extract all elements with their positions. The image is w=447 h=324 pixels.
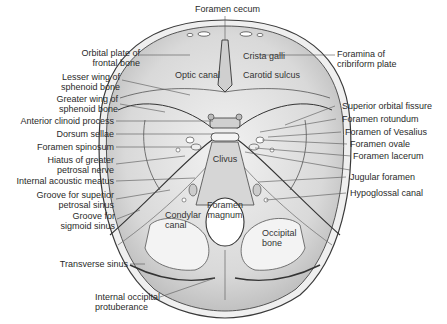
label-foramen-rotundum: Foramen rotundum — [342, 114, 447, 124]
label-carotid-sulcus: Carotid sulcus — [243, 70, 300, 80]
label-hypoglossal-canal: Hypoglossal canal — [350, 188, 447, 198]
label-lesser-wing: Lesser wing of sphenoid bone — [0, 72, 120, 92]
label-condylar-canal: Condylar canal — [165, 210, 201, 230]
label-internal-occipital-protuberance: Internal occipital protuberance — [95, 292, 195, 312]
label-jugular-foramen: Jugular foramen — [350, 172, 447, 182]
label-superior-orbital-fissure: Superior orbital fissure — [342, 101, 447, 111]
label-foramen-ovale: Foramen ovale — [350, 139, 447, 149]
label-groove-superior-petrosal: Groove for superior petrosal sinus — [0, 190, 114, 210]
label-foramen-spinosum: Foramen spinosum — [0, 142, 114, 152]
label-greater-wing: Greater wing of sphenoid bone — [0, 94, 118, 114]
label-anterior-clinoid: Anterior clinoid process — [0, 116, 114, 126]
label-transverse-sinus: Transverse sinus — [0, 259, 128, 269]
label-orbital-plate: Orbital plate of frontal bone — [20, 48, 140, 68]
label-occipital-bone: Occipital bone — [262, 228, 297, 248]
label-foramen-lacerum: Foramen lacerum — [353, 151, 447, 161]
label-hiatus-greater-petrosal: Hiatus of greater petrosal nerve — [0, 155, 114, 175]
label-crista-galli: Crista galli — [243, 51, 285, 61]
label-dorsum-sellae: Dorsum sellae — [0, 129, 114, 139]
label-clivus: Clivus — [205, 154, 245, 164]
label-foramen-vesalius: Foramen of Vesalius — [345, 127, 447, 137]
label-internal-acoustic-meatus: Internal acoustic meatus — [0, 176, 114, 186]
label-groove-sigmoid: Groove for sigmoid sinus — [0, 211, 115, 231]
label-optic-canal: Optic canal — [175, 70, 220, 80]
label-foramen-magnum: Foramen magnum — [200, 200, 250, 220]
label-foramina-cribriform: Foramina of cribriform plate — [337, 49, 447, 69]
cranial-base-figure: Foramen cecum Orbital plate of frontal b… — [0, 0, 447, 324]
label-foramen-cecum: Foramen cecum — [195, 4, 255, 14]
